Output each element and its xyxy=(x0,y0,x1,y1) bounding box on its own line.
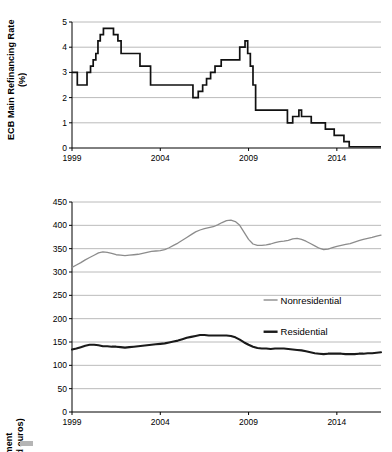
y-tick-label: 300 xyxy=(53,267,67,277)
chart-panel-ecb-rate: ECB Main Refinancing Rate (%) 0123451999… xyxy=(0,0,392,178)
y-tick-label: 2 xyxy=(62,93,67,103)
chart-panel-private-fixed-investment: Private Fixed Investment (billions of 20… xyxy=(0,178,392,452)
figure-container: ECB Main Refinancing Rate (%) 0123451999… xyxy=(0,0,392,452)
y-tick-label: 200 xyxy=(53,314,67,324)
x-tick-label: 1999 xyxy=(63,153,82,163)
x-tick-label: 2009 xyxy=(239,417,258,427)
y-tick-label: 4 xyxy=(62,42,67,52)
y-tick-label: 0 xyxy=(62,407,67,417)
x-tick-label: 1999 xyxy=(63,417,82,427)
y-tick-label: 250 xyxy=(53,290,67,300)
y-tick-label: 5 xyxy=(62,17,67,27)
x-tick-label: 2004 xyxy=(151,417,170,427)
x-tick-label: 2014 xyxy=(327,417,346,427)
scan-artifact xyxy=(20,441,33,446)
y-tick-label: 400 xyxy=(53,220,67,230)
y-tick-label: 0 xyxy=(62,143,67,153)
ecb-rate-plot: 0123451999200420092014 xyxy=(0,0,392,178)
y-tick-label: 100 xyxy=(53,360,67,370)
series-line-ecb-main-refinancing-rate xyxy=(72,28,381,146)
y-tick-label: 3 xyxy=(62,67,67,77)
ecb-rate-y-axis-title: ECB Main Refinancing Rate (%) xyxy=(6,12,20,148)
legend-label-nonresidential: Nonresidential xyxy=(281,295,342,306)
series-line-nonresidential xyxy=(72,220,381,267)
y-tick-label: 1 xyxy=(62,118,67,128)
investment-plot: 0501001502002503003504004501999200420092… xyxy=(0,178,392,452)
legend-label-residential: Residential xyxy=(281,326,328,337)
x-tick-label: 2014 xyxy=(327,153,346,163)
y-tick-label: 50 xyxy=(58,384,68,394)
investment-y-axis-title-line1: Private Fixed Investment xyxy=(4,433,14,452)
x-tick-label: 2004 xyxy=(151,153,170,163)
y-tick-label: 450 xyxy=(53,197,67,207)
y-tick-label: 350 xyxy=(53,244,67,254)
y-tick-label: 150 xyxy=(53,337,67,347)
series-line-residential xyxy=(72,335,381,354)
investment-y-axis-title-line2: (billions of 2010 chained euros) xyxy=(15,418,25,452)
x-tick-label: 2009 xyxy=(239,153,258,163)
